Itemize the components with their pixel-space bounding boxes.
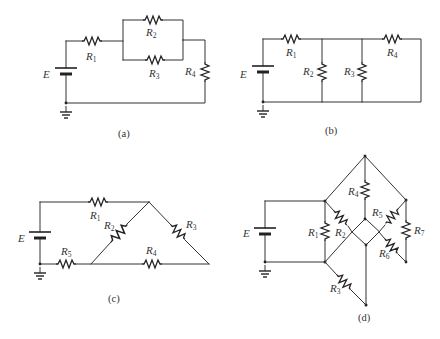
r1-label: R1 (85, 50, 97, 64)
resistor-r3-icon (168, 222, 188, 242)
r4-label: R4 (145, 244, 157, 258)
caption-c: (c) (108, 293, 120, 305)
ground-icon (257, 105, 269, 117)
r4-label: R4 (184, 65, 196, 79)
source-label: E (42, 68, 50, 80)
battery-icon (29, 232, 51, 238)
panel-c: E R1 R2 R3 R4 R5 (c) (17, 198, 209, 305)
resistor-r4-icon (361, 180, 369, 200)
resistor-r4-icon (142, 260, 162, 268)
r3-label: R3 (148, 67, 160, 81)
ground-icon (259, 265, 271, 277)
resistor-r1-icon (88, 198, 108, 206)
r3-label: R3 (343, 65, 355, 79)
resistor-r1-icon (82, 37, 102, 45)
resistor-r2-icon (331, 208, 350, 227)
resistor-r4-icon (201, 62, 209, 82)
r2-label: R2 (145, 26, 157, 40)
r7-label: R7 (413, 224, 425, 238)
ground-icon (34, 267, 46, 279)
panel-d: E R1 R2 R3 R4 R5 R6 R7 (d) (242, 155, 425, 325)
r1-label: R1 (89, 209, 101, 223)
resistor-r4-icon (382, 35, 402, 43)
battery-icon (254, 228, 276, 234)
resistor-r1-icon (321, 221, 329, 241)
battery-icon (55, 68, 77, 74)
resistor-r7-icon (402, 220, 410, 240)
resistor-r1-icon (281, 35, 301, 43)
r2-label: R2 (302, 65, 314, 79)
r5-label: R5 (60, 245, 72, 259)
panel-a: E R1 R2 R3 R4 (a) (42, 16, 209, 140)
caption-a: (a) (118, 128, 130, 140)
source-label: E (242, 227, 250, 239)
source-label: E (17, 232, 25, 244)
resistor-r2-icon (318, 62, 326, 82)
r3-label: R3 (185, 218, 197, 232)
r1-label: R1 (307, 226, 319, 240)
resistor-r5-icon (383, 206, 402, 226)
circuit-figure: E R1 R2 R3 R4 (a) E R1 R2 R3 R4 (b) (0, 0, 440, 339)
resistor-r3-icon (358, 62, 366, 82)
r2-label: R2 (103, 219, 115, 233)
r6-label: R6 (378, 247, 390, 261)
r2-label: R2 (334, 226, 346, 240)
source-label: E (239, 68, 247, 80)
battery-icon (252, 66, 274, 72)
caption-b: (b) (325, 125, 338, 137)
r4-label: R4 (386, 46, 398, 60)
resistor-r3-icon (145, 56, 165, 64)
panel-b: E R1 R2 R3 R4 (b) (239, 35, 421, 137)
ground-icon (60, 106, 72, 118)
resistor-r5-icon (56, 260, 76, 268)
r5-label: R5 (371, 206, 383, 220)
r1-label: R1 (285, 46, 297, 60)
caption-d: (d) (358, 312, 371, 324)
resistor-r2-icon (143, 16, 163, 24)
r3-label: R3 (329, 282, 341, 296)
r4-label: R4 (347, 185, 359, 199)
